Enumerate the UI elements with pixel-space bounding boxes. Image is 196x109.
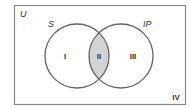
universe-label: U <box>20 9 27 19</box>
set-ip-label: IP <box>143 19 152 29</box>
region-ii-label: II <box>97 52 101 61</box>
region-i-label: I <box>64 52 66 61</box>
region-iv-label: IV <box>172 93 180 102</box>
region-iii-label: III <box>130 52 137 61</box>
venn-diagram: U S IP I II III IV <box>0 0 196 109</box>
set-s-label: S <box>48 19 54 29</box>
